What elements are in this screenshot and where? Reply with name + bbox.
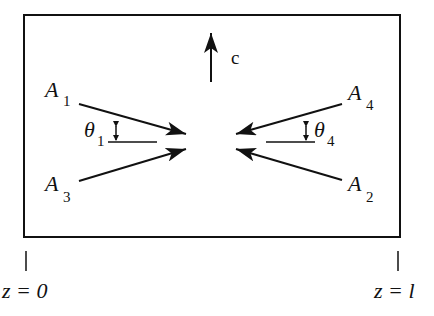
label-theta1: θ 1 <box>84 117 105 149</box>
wave-a2-arrow <box>236 149 342 180</box>
svg-text:4: 4 <box>366 97 374 113</box>
svg-text:A: A <box>346 171 362 196</box>
label-theta4: θ 4 <box>314 117 335 149</box>
svg-text:A: A <box>43 171 59 196</box>
wave-a4-arrow <box>236 104 342 134</box>
wave-a1-arrow <box>79 104 186 134</box>
label-z-l: z = l <box>373 278 415 303</box>
svg-text:1: 1 <box>97 133 105 149</box>
svg-text:A: A <box>43 77 59 102</box>
label-a3: A 3 <box>43 171 71 205</box>
label-z-0: z = 0 <box>1 278 47 303</box>
label-a4: A 4 <box>346 80 374 113</box>
diagram-canvas: c A 1 A 3 A 4 A 2 θ 1 θ 4 z = 0 z = l <box>0 0 434 316</box>
svg-text:θ: θ <box>84 117 95 142</box>
svg-text:A: A <box>346 80 362 105</box>
svg-text:1: 1 <box>63 93 71 109</box>
svg-text:3: 3 <box>63 189 71 205</box>
label-a1: A 1 <box>43 77 71 109</box>
svg-text:2: 2 <box>366 189 374 205</box>
svg-text:θ: θ <box>314 117 325 142</box>
svg-text:4: 4 <box>327 133 335 149</box>
label-a2: A 2 <box>346 171 374 205</box>
c-axis-label: c <box>231 47 239 68</box>
wave-a3-arrow <box>79 149 186 181</box>
